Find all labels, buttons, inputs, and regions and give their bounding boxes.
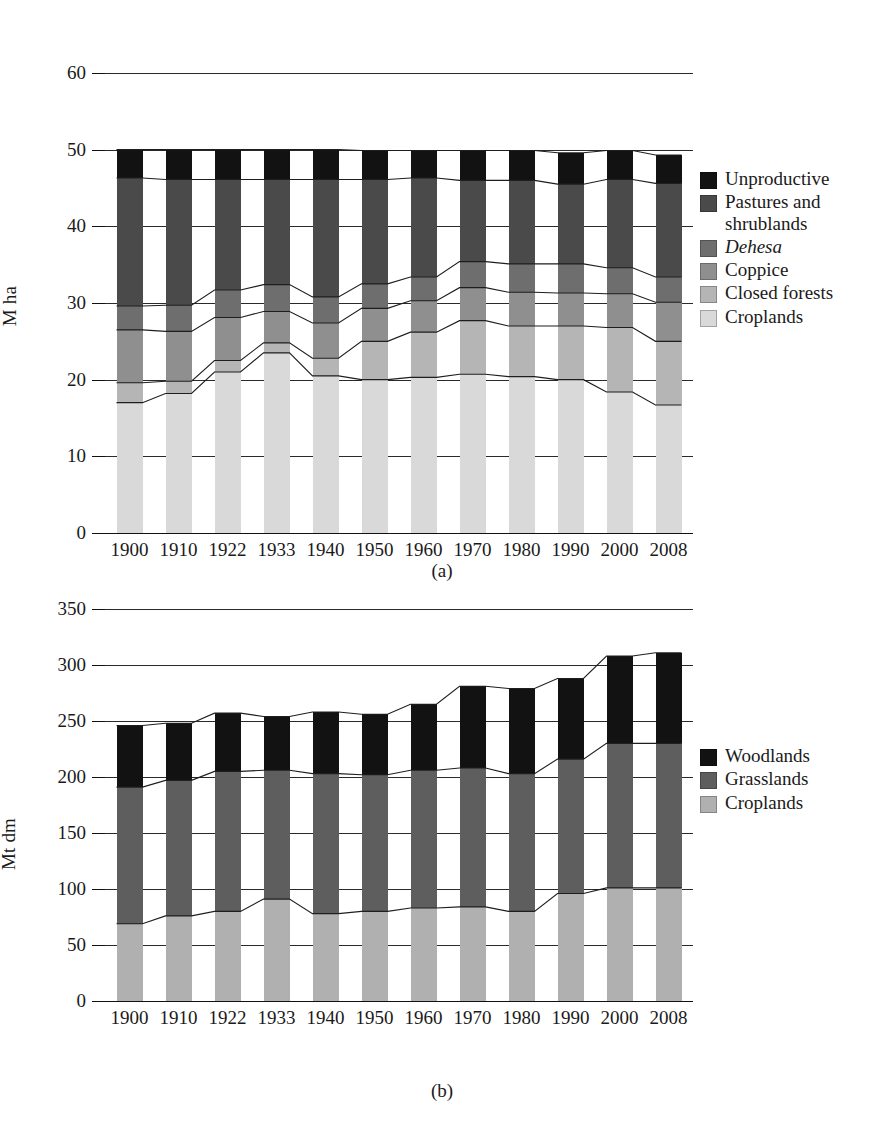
connector-coppice [117, 288, 682, 332]
x-tick-label: 2000 [595, 539, 644, 561]
x-tick-label: 1933 [252, 539, 301, 561]
legend-label: Unproductive [725, 168, 829, 189]
connector-dehesa [117, 262, 682, 306]
legend-swatch-icon [700, 772, 717, 789]
legend-swatch-icon [700, 749, 717, 766]
x-tick-label: 1940 [301, 539, 350, 561]
y-tick-mark [92, 945, 105, 946]
x-tick-label: 1960 [399, 539, 448, 561]
y-tick-mark [92, 380, 105, 381]
x-tick-label: 2008 [644, 539, 693, 561]
y-tick-label: 20 [26, 369, 86, 391]
connector-pastures-and-shrublands [117, 178, 682, 184]
y-tick-label: 100 [26, 878, 86, 900]
x-tick-label: 1960 [399, 1007, 448, 1029]
figure-two-panel-stacked-bar-charts: M ha 01020304050601900191019221933194019… [0, 0, 884, 1143]
connector-croplands [117, 353, 682, 405]
legend-label: Woodlands [725, 745, 810, 766]
x-tick-label: 1933 [252, 1007, 301, 1029]
y-axis-label-b: Mt dm [0, 818, 20, 870]
y-tick-mark [92, 226, 105, 227]
connector-unproductive [117, 150, 682, 155]
stack-connector-lines [105, 73, 693, 533]
y-tick-mark [92, 303, 105, 304]
x-tick-label: 1900 [105, 539, 154, 561]
x-tick-label: 2000 [595, 1007, 644, 1029]
panel-caption-b: (b) [0, 1080, 884, 1102]
x-tick-label: 1990 [546, 539, 595, 561]
legend-label: Croplands [725, 792, 803, 813]
gridline [105, 533, 693, 534]
x-tick-label: 2008 [644, 1007, 693, 1029]
y-tick-label: 30 [26, 292, 86, 314]
connector-woodlands [117, 653, 682, 726]
panel-caption-a: (a) [0, 560, 884, 582]
legend-label: Coppice [725, 259, 788, 280]
legend-swatch-icon [700, 796, 717, 813]
legend-swatch-icon [700, 240, 717, 257]
legend-label: Dehesa [725, 236, 782, 257]
y-tick-label: 350 [26, 598, 86, 620]
legend-item-grasslands[interactable]: Grasslands [700, 768, 884, 789]
y-tick-mark [92, 1001, 105, 1002]
legend-a: UnproductivePastures and shrublandsDehes… [700, 168, 884, 329]
panel-a: M ha 01020304050601900191019221933194019… [0, 0, 884, 580]
legend-b: WoodlandsGrasslandsCroplands [700, 745, 884, 815]
legend-item-coppice[interactable]: Coppice [700, 259, 884, 280]
connector-grasslands [117, 743, 682, 787]
legend-item-dehesa[interactable]: Dehesa [700, 236, 884, 257]
legend-item-croplands[interactable]: Croplands [700, 792, 884, 813]
y-tick-mark [92, 721, 105, 722]
legend-item-croplands[interactable]: Croplands [700, 306, 884, 327]
y-tick-mark [92, 73, 105, 74]
y-tick-mark [92, 456, 105, 457]
plot-area-b: 0501001502002503003501900191019221933194… [105, 609, 693, 1001]
x-tick-label: 1940 [301, 1007, 350, 1029]
x-tick-label: 1910 [154, 539, 203, 561]
x-tick-label: 1970 [448, 539, 497, 561]
x-tick-label: 1970 [448, 1007, 497, 1029]
x-tick-label: 1910 [154, 1007, 203, 1029]
legend-swatch-icon [700, 195, 717, 212]
legend-swatch-icon [700, 172, 717, 189]
y-tick-mark [92, 665, 105, 666]
y-tick-label: 0 [26, 990, 86, 1012]
legend-item-closed-forests[interactable]: Closed forests [700, 282, 884, 303]
legend-swatch-icon [700, 310, 717, 327]
y-tick-label: 200 [26, 766, 86, 788]
legend-swatch-icon [700, 286, 717, 303]
legend-label: Croplands [725, 306, 803, 327]
legend-label: Closed forests [725, 282, 833, 303]
x-tick-label: 1950 [350, 539, 399, 561]
y-tick-label: 0 [26, 522, 86, 544]
panel-b: Mt dm 0501001502002503003501900191019221… [0, 580, 884, 1143]
y-tick-label: 10 [26, 445, 86, 467]
plot-area-a: 0102030405060190019101922193319401950196… [105, 73, 693, 533]
y-tick-label: 250 [26, 710, 86, 732]
x-tick-label: 1922 [203, 539, 252, 561]
y-tick-mark [92, 150, 105, 151]
y-tick-mark [92, 889, 105, 890]
x-tick-label: 1980 [497, 539, 546, 561]
connector-closed-forests [117, 321, 682, 383]
connector-croplands [117, 888, 682, 924]
y-tick-mark [92, 609, 105, 610]
y-tick-label: 50 [26, 934, 86, 956]
y-tick-mark [92, 533, 105, 534]
y-tick-mark [92, 833, 105, 834]
stack-connector-lines [105, 609, 693, 1001]
x-tick-label: 1922 [203, 1007, 252, 1029]
legend-label: Pastures and shrublands [725, 191, 821, 234]
y-tick-label: 300 [26, 654, 86, 676]
x-tick-label: 1950 [350, 1007, 399, 1029]
y-tick-label: 150 [26, 822, 86, 844]
legend-label: Grasslands [725, 768, 808, 789]
x-tick-label: 1980 [497, 1007, 546, 1029]
legend-item-woodlands[interactable]: Woodlands [700, 745, 884, 766]
y-axis-label-a: M ha [0, 286, 21, 326]
legend-item-pastures-and-shrublands[interactable]: Pastures and shrublands [700, 191, 884, 234]
gridline [105, 1001, 693, 1002]
y-tick-mark [92, 777, 105, 778]
legend-item-unproductive[interactable]: Unproductive [700, 168, 884, 189]
y-tick-label: 60 [26, 62, 86, 84]
